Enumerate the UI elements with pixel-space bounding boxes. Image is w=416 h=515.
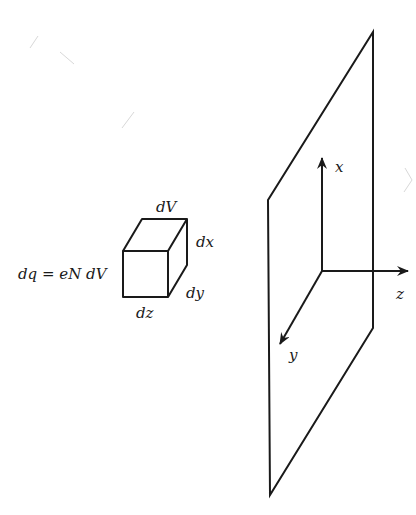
axis-label-y: y xyxy=(288,346,298,364)
coordinate-axes xyxy=(280,158,408,344)
label-dV: dV xyxy=(156,198,179,216)
label-dx: dx xyxy=(196,233,215,251)
volume-element-cube xyxy=(123,219,187,297)
cube-top-face xyxy=(123,219,187,251)
charged-plane xyxy=(268,32,373,495)
cube-front-face xyxy=(123,251,168,297)
charge-equation: dq = eN dV xyxy=(18,265,109,283)
axis-label-x: x xyxy=(335,158,344,176)
cube-right-face xyxy=(168,219,187,297)
diagram-canvas: dV dx dy dz dq = eN dV x z y xyxy=(0,0,416,515)
y-axis-arrow xyxy=(280,271,322,344)
label-dy: dy xyxy=(186,284,205,302)
axis-label-z: z xyxy=(395,285,404,303)
label-dz: dz xyxy=(136,304,154,322)
